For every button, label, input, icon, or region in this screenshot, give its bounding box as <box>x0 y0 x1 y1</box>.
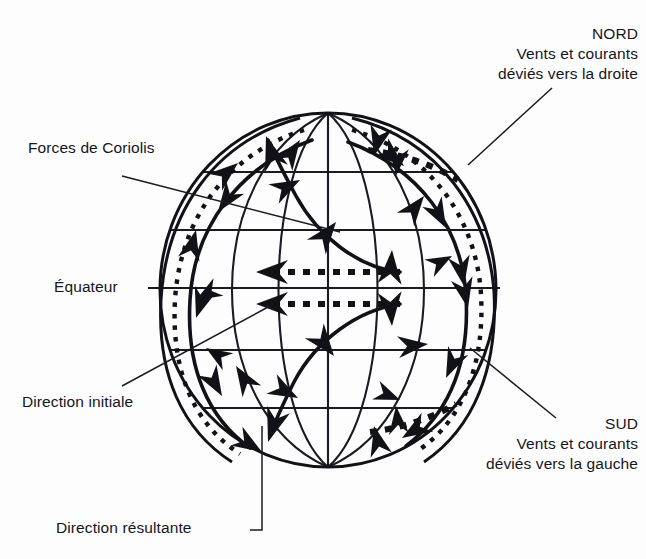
arrowhead <box>397 333 429 358</box>
arrowhead <box>422 196 456 233</box>
globe-graticule <box>148 108 510 472</box>
label-sud-line2: déviés vers la gauche <box>486 455 638 472</box>
arrowhead <box>256 260 288 284</box>
arrowhead <box>256 292 288 316</box>
coriolis-arrowheads-right-south <box>372 333 429 409</box>
label-nord-line1: Vents et courants <box>517 45 638 62</box>
limb-band-left <box>161 118 312 462</box>
label-equateur: Équateur <box>54 277 118 297</box>
arrowhead <box>201 340 234 371</box>
meridian-left-inner <box>279 113 329 467</box>
limb-left-arrowheads-north <box>178 134 309 262</box>
label-forces-de-coriolis: Forces de Coriolis <box>28 138 155 158</box>
resultant-direction-curve-north <box>268 140 400 272</box>
coriolis-arrowheads-right-north <box>397 189 457 277</box>
label-sud-title: SUD <box>605 415 638 432</box>
label-nord-line2: déviés vers la droite <box>498 65 638 82</box>
label-sud-line1: Vents et courants <box>517 435 638 452</box>
diagram-canvas: NORD Vents et courants déviés vers la dr… <box>0 0 646 559</box>
resultant-direction-curve-south <box>270 304 400 436</box>
meridian-right-inner <box>328 113 378 467</box>
label-direction-initiale: Direction initiale <box>22 392 133 412</box>
label-sud: SUD Vents et courants déviés vers la gau… <box>486 414 638 474</box>
limb-right-arrowheads-south <box>396 276 479 447</box>
label-nord: NORD Vents et courants déviés vers la dr… <box>498 24 638 84</box>
label-direction-resultante: Direction résultante <box>56 518 192 538</box>
meridian-right-outer <box>328 113 424 467</box>
leader-nord <box>468 88 552 165</box>
label-nord-title: NORD <box>592 25 638 42</box>
limb-band-right <box>348 118 494 462</box>
arrowhead <box>372 381 404 409</box>
leader-coriolis <box>122 176 340 232</box>
